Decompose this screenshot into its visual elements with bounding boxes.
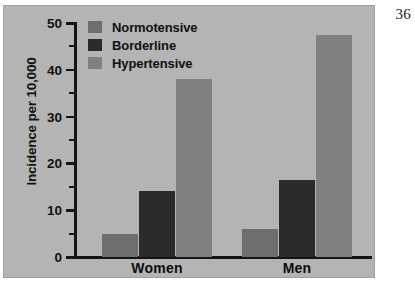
legend-item: Borderline — [88, 37, 198, 53]
y-tick-major — [66, 22, 75, 25]
y-tick-minor — [69, 92, 75, 94]
page-number: 36 — [396, 6, 411, 23]
legend-label: Normotensive — [112, 20, 198, 35]
figure-panel: Incidence per 10,000 01020304050 WomenMe… — [3, 5, 375, 278]
y-tick-major — [66, 209, 75, 212]
bar — [176, 79, 212, 257]
bar — [242, 229, 278, 257]
y-tick-minor — [69, 45, 75, 47]
y-tick-label: 50 — [14, 16, 62, 31]
chart-legend: NormotensiveBorderlineHypertensive — [88, 19, 198, 73]
legend-item: Hypertensive — [88, 55, 198, 71]
y-tick-label: 10 — [14, 203, 62, 218]
legend-item: Normotensive — [88, 19, 198, 35]
legend-label: Borderline — [112, 38, 176, 53]
legend-swatch-icon — [88, 39, 102, 51]
x-category-label: Men — [283, 260, 312, 276]
y-tick-label: 30 — [14, 109, 62, 124]
legend-label: Hypertensive — [112, 56, 192, 71]
y-tick-major — [66, 256, 75, 259]
bar — [316, 35, 352, 257]
legend-swatch-icon — [88, 57, 102, 69]
x-category-label: Women — [131, 260, 182, 276]
y-tick-minor — [69, 186, 75, 188]
y-tick-minor — [69, 233, 75, 235]
bar — [102, 234, 138, 257]
legend-swatch-icon — [88, 21, 102, 33]
y-tick-label: 0 — [14, 250, 62, 265]
y-tick-major — [66, 162, 75, 165]
y-tick-major — [66, 116, 75, 119]
y-axis-tick-labels: 01020304050 — [10, 6, 62, 279]
y-tick-label: 40 — [14, 62, 62, 77]
y-tick-major — [66, 69, 75, 72]
bar — [139, 191, 175, 257]
bar — [279, 180, 315, 257]
y-tick-minor — [69, 139, 75, 141]
y-tick-label: 20 — [14, 156, 62, 171]
